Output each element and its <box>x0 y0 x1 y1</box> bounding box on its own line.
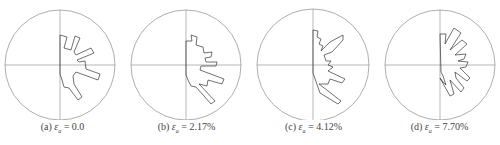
subscript: a <box>429 128 432 134</box>
equals-sign: = <box>434 121 440 132</box>
strain-value: 7.70% <box>442 121 468 132</box>
panel-d: (d) εa = 7.70% <box>0 0 500 145</box>
panel-label: (d) <box>411 121 423 132</box>
rose-diagram-d <box>0 0 500 120</box>
rose-outline <box>440 28 470 96</box>
caption-d: (d) εa = 7.70% <box>377 121 500 134</box>
